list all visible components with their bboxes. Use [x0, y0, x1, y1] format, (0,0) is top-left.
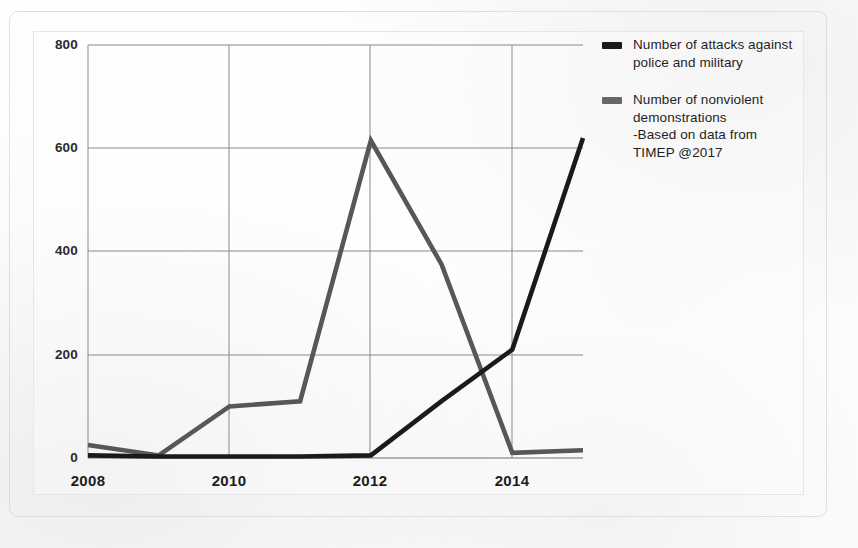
legend-entry-attacks: Number of attacks against police and mil… — [602, 36, 817, 71]
line-chart-figure: 800 600 400 200 0 2008 2010 2012 2014 Nu… — [0, 0, 858, 548]
legend-label-attacks: Number of attacks against police and mil… — [633, 36, 792, 71]
x-axis-tick-2010: 2010 — [189, 472, 269, 489]
legend-swatch-attacks-icon — [602, 42, 622, 49]
legend-label-demonstrations: Number of nonviolent demonstrations -Bas… — [633, 91, 763, 161]
y-axis-tick-800: 800 — [24, 37, 78, 52]
y-axis-tick-0: 0 — [24, 450, 78, 465]
chart-legend: Number of attacks against police and mil… — [602, 36, 817, 181]
y-axis-tick-600: 600 — [24, 140, 78, 155]
legend-entry-demonstrations: Number of nonviolent demonstrations -Bas… — [602, 91, 817, 161]
legend-swatch-demonstrations-icon — [602, 97, 622, 104]
series-line-attacks-police-military — [88, 138, 583, 457]
x-axis-tick-2008: 2008 — [48, 472, 128, 489]
x-axis-tick-2014: 2014 — [472, 472, 552, 489]
y-axis-tick-200: 200 — [24, 347, 78, 362]
x-axis-tick-2012: 2012 — [330, 472, 410, 489]
horizontal-gridlines — [88, 45, 583, 355]
series-line-nonviolent-demonstrations — [88, 141, 583, 456]
y-axis-tick-400: 400 — [24, 243, 78, 258]
